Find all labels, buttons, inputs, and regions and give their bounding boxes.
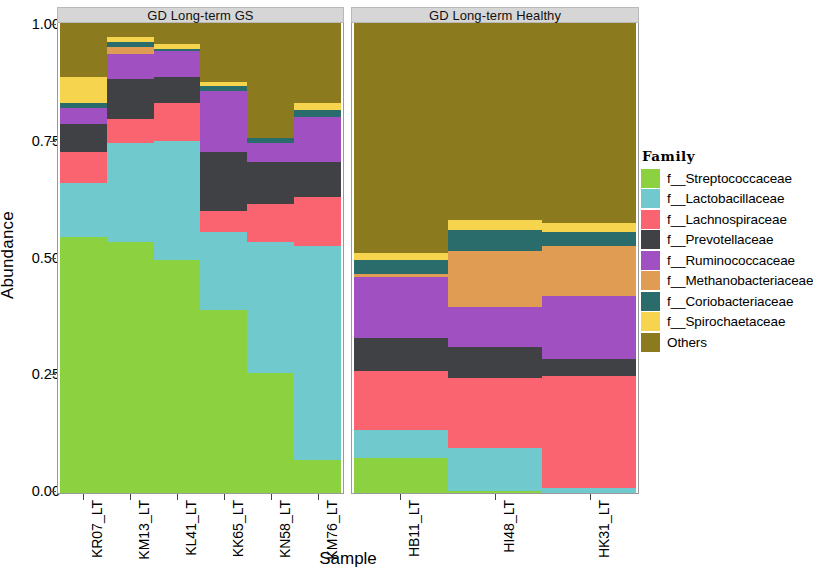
bar-segment[interactable] [154, 49, 201, 51]
bar-segment[interactable] [154, 51, 201, 77]
bar-segment[interactable] [200, 211, 247, 232]
bar-segment[interactable] [107, 119, 154, 143]
bar-segment[interactable] [200, 232, 247, 310]
bar-segment[interactable] [448, 251, 542, 307]
bar-segment[interactable] [354, 253, 448, 260]
bar-segment[interactable] [247, 373, 294, 493]
bar-segment[interactable] [542, 376, 636, 489]
facet-panel-healthy: GD Long-term Healthy [351, 7, 639, 494]
bar-segment[interactable] [154, 103, 201, 141]
bar-segment[interactable] [200, 82, 247, 87]
stacked-bar[interactable] [107, 23, 154, 493]
bar-segment[interactable] [200, 23, 247, 82]
bar-segment[interactable] [107, 54, 154, 80]
legend-item[interactable]: f__Lachnospiraceae [641, 209, 811, 230]
bar-group-gs [60, 23, 341, 493]
bar-segment[interactable] [247, 138, 294, 143]
bar-segment[interactable] [154, 260, 201, 493]
bar-segment[interactable] [200, 152, 247, 211]
stacked-bar[interactable] [448, 23, 542, 493]
bar-segment[interactable] [107, 23, 154, 37]
bar-segment[interactable] [354, 277, 448, 338]
facet-panels: GD Long-term GS GD Long-term Healthy [57, 7, 639, 494]
bar-segment[interactable] [154, 77, 201, 103]
bar-segment[interactable] [200, 310, 247, 493]
bar-segment[interactable] [542, 246, 636, 295]
bar-segment[interactable] [247, 162, 294, 204]
bar-segment[interactable] [448, 307, 542, 347]
bar-segment[interactable] [294, 197, 341, 246]
stacked-bar[interactable] [294, 23, 341, 493]
bar-segment[interactable] [60, 124, 107, 152]
bar-segment[interactable] [542, 296, 636, 359]
stacked-bar[interactable] [542, 23, 636, 493]
bar-segment[interactable] [354, 430, 448, 458]
bar-segment[interactable] [448, 491, 542, 493]
bar-segment[interactable] [354, 260, 448, 274]
bar-segment[interactable] [60, 152, 107, 183]
bar-segment[interactable] [542, 223, 636, 232]
legend-item[interactable]: f__Lactobacillaceae [641, 189, 811, 210]
bar-segment[interactable] [200, 86, 247, 91]
bar-segment[interactable] [448, 448, 542, 490]
bar-segment[interactable] [107, 42, 154, 47]
bar-segment[interactable] [60, 237, 107, 493]
bar-segment[interactable] [354, 274, 448, 276]
bar-segment[interactable] [448, 378, 542, 449]
bar-segment[interactable] [542, 359, 636, 375]
bar-segment[interactable] [60, 183, 107, 237]
bar-segment[interactable] [354, 338, 448, 371]
bar-segment[interactable] [354, 23, 448, 253]
bar-segment[interactable] [107, 143, 154, 242]
bar-segment[interactable] [294, 103, 341, 110]
bar-segment[interactable] [107, 47, 154, 54]
bar-segment[interactable] [60, 77, 107, 103]
bar-segment[interactable] [448, 220, 542, 229]
facet-strip-gs: GD Long-term GS [57, 7, 344, 23]
bar-segment[interactable] [354, 458, 448, 493]
bar-segment[interactable] [247, 143, 294, 162]
bar-segment[interactable] [247, 242, 294, 374]
bar-segment[interactable] [60, 23, 107, 77]
bar-segment[interactable] [448, 230, 542, 251]
legend-item[interactable]: f__Spirochaetaceae [641, 312, 811, 333]
bar-segment[interactable] [354, 371, 448, 430]
y-tick-mark [50, 374, 56, 375]
legend: Family f__Streptococcaceaef__Lactobacill… [641, 148, 811, 353]
bar-segment[interactable] [247, 204, 294, 242]
bar-segment[interactable] [107, 79, 154, 119]
stacked-bar[interactable] [60, 23, 107, 493]
legend-item[interactable]: f__Methanobacteriaceae [641, 271, 811, 292]
bar-segment[interactable] [294, 117, 341, 162]
facet-strip-healthy: GD Long-term Healthy [351, 7, 639, 23]
bar-segment[interactable] [154, 23, 201, 44]
bar-segment[interactable] [107, 242, 154, 493]
bar-segment[interactable] [154, 44, 201, 49]
bar-segment[interactable] [294, 23, 341, 103]
bar-segment[interactable] [542, 488, 636, 493]
bar-segment[interactable] [107, 37, 154, 42]
bar-segment[interactable] [542, 23, 636, 223]
legend-color-swatch [641, 251, 660, 270]
bar-segment[interactable] [448, 347, 542, 378]
bar-segment[interactable] [200, 91, 247, 152]
bar-segment[interactable] [154, 141, 201, 261]
bar-segment[interactable] [294, 460, 341, 493]
bar-segment[interactable] [60, 103, 107, 108]
legend-item[interactable]: f__Prevotellaceae [641, 230, 811, 251]
stacked-bar[interactable] [354, 23, 448, 493]
legend-item[interactable]: f__Streptococcaceae [641, 168, 811, 189]
legend-item[interactable]: Others [641, 332, 811, 353]
bar-segment[interactable] [294, 162, 341, 197]
legend-item[interactable]: f__Coriobacteriaceae [641, 291, 811, 312]
bar-segment[interactable] [294, 246, 341, 460]
bar-segment[interactable] [60, 108, 107, 124]
legend-item[interactable]: f__Ruminococcaceae [641, 250, 811, 271]
stacked-bar[interactable] [200, 23, 247, 493]
bar-segment[interactable] [294, 110, 341, 117]
stacked-bar[interactable] [247, 23, 294, 493]
bar-segment[interactable] [247, 23, 294, 138]
bar-segment[interactable] [448, 23, 542, 220]
stacked-bar[interactable] [154, 23, 201, 493]
bar-segment[interactable] [542, 232, 636, 246]
